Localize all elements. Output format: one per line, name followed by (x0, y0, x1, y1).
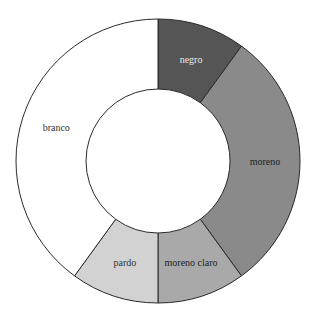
label-negro: negro (180, 54, 203, 65)
label-branco: branco (43, 122, 70, 133)
donut-chart: negromorenomoreno claropardobranco (0, 0, 316, 323)
label-pardo: pardo (114, 257, 137, 268)
label-moreno-claro: moreno claro (165, 257, 218, 268)
label-moreno: moreno (250, 156, 281, 167)
